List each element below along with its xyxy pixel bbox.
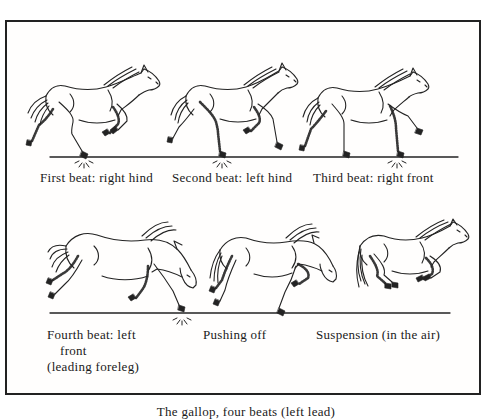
hoof-impact-sparkle-1 [75, 161, 93, 168]
caption-third-beat: Third beat: right front [313, 170, 434, 186]
horse-pushing-off-illustration [209, 224, 336, 316]
hoof-impact-sparkle-4 [173, 318, 191, 325]
figure-bottom-caption: The gallop, four beats (left lead) [0, 404, 492, 420]
caption-fourth-beat-line3: (leading foreleg) [47, 359, 139, 375]
caption-fourth-beat-line2: front [47, 343, 139, 359]
horse-first-beat-illustration [26, 65, 160, 159]
horse-fourth-beat-illustration [46, 222, 196, 312]
hoof-impact-sparkle-2 [213, 161, 231, 168]
caption-suspension: Suspension (in the air) [316, 327, 440, 343]
caption-pushing-off: Pushing off [203, 327, 266, 343]
horse-third-beat-illustration [299, 68, 429, 158]
caption-second-beat: Second beat: left hind [172, 170, 292, 186]
caption-fourth-beat-line1: Fourth beat: left [47, 327, 139, 343]
horse-second-beat-illustration [167, 63, 298, 158]
caption-first-beat: First beat: right hind [40, 170, 153, 186]
horse-suspension-illustration [357, 219, 469, 289]
caption-fourth-beat: Fourth beat: left front (leading foreleg… [47, 327, 139, 375]
hoof-impact-sparkle-3 [388, 161, 406, 168]
